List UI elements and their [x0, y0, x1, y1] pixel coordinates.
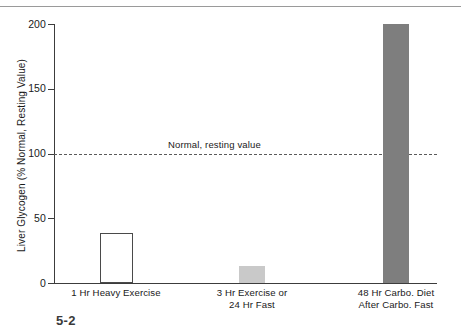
figure-caption: 5-2 [56, 313, 76, 327]
y-axis-tick-label-wrap: 100 [0, 148, 46, 159]
y-axis-tick-label-wrap: 50 [0, 213, 46, 224]
y-axis-tick-label-wrap: 150 [0, 83, 46, 94]
x-axis-category-label-line: 48 Hr Carbo. Diet [358, 287, 434, 299]
bar [383, 24, 409, 283]
x-axis-category-label-line: 24 Hr Fast [217, 299, 287, 311]
bar-chart-figure: Liver Glycogen (% Normal, Resting Value)… [0, 0, 461, 327]
y-axis-tick-mark [48, 283, 55, 284]
y-axis-tick-label: 50 [2, 213, 46, 224]
x-axis-category-label: 3 Hr Exercise or24 Hr Fast [217, 287, 287, 310]
x-axis-category-label-line: 3 Hr Exercise or [217, 287, 287, 299]
x-axis-category-label: 48 Hr Carbo. DietAfter Carbo. Fast [358, 287, 434, 310]
x-axis-category-label-line: After Carbo. Fast [358, 299, 434, 311]
plot-area [54, 24, 437, 283]
y-axis-tick-label: 100 [2, 148, 46, 159]
bar [100, 233, 133, 284]
y-axis-tick-label-wrap: 200 [0, 19, 46, 30]
x-axis-category-label: 1 Hr Heavy Exercise [71, 287, 160, 299]
y-axis-tick-label: 0 [2, 278, 46, 289]
y-axis-tick-label: 150 [2, 83, 46, 94]
x-axis-line [54, 283, 437, 284]
y-axis-tick-label-wrap: 0 [0, 278, 46, 289]
bar [239, 266, 265, 283]
y-axis-tick-label: 200 [2, 19, 46, 30]
x-axis-category-label-line: 1 Hr Heavy Exercise [71, 287, 160, 299]
